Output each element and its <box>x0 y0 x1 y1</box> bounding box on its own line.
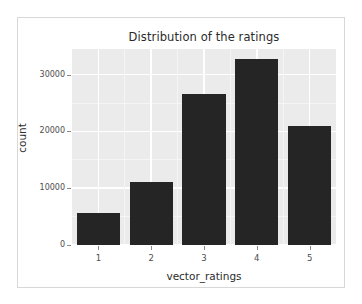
x-axis-tick-mark <box>257 246 258 250</box>
x-axis-tick-label: 1 <box>83 253 113 263</box>
bar <box>182 94 225 245</box>
y-axis-title: count <box>16 108 28 168</box>
y-axis-tick-label: 10000 <box>19 183 65 192</box>
bar <box>130 182 173 245</box>
gridline-vertical-minor <box>230 49 231 245</box>
x-axis-tick-label: 5 <box>295 253 325 263</box>
x-axis-tick-mark <box>310 246 311 250</box>
gridline-vertical-minor <box>124 49 125 245</box>
gridline-vertical-minor <box>177 49 178 245</box>
y-axis-tick-mark <box>67 188 71 189</box>
x-axis-tick-mark <box>204 246 205 250</box>
y-axis-tick-label: 30000 <box>19 70 65 79</box>
chart-title: Distribution of the ratings <box>72 30 336 44</box>
y-axis-tick-mark <box>67 75 71 76</box>
x-axis-tick-label: 3 <box>189 253 219 263</box>
x-axis-tick-label: 2 <box>136 253 166 263</box>
y-axis-tick-mark <box>67 245 71 246</box>
bar <box>288 126 331 245</box>
y-axis-tick-mark <box>67 131 71 132</box>
chart-figure: Distribution of the ratings 010000200003… <box>0 0 362 304</box>
gridline-vertical-minor <box>283 49 284 245</box>
x-axis-tick-mark <box>98 246 99 250</box>
plot-panel <box>72 49 336 245</box>
x-axis-tick-label: 4 <box>242 253 272 263</box>
y-axis-tick-label: 0 <box>19 240 65 249</box>
bar <box>77 213 120 245</box>
x-axis-tick-mark <box>151 246 152 250</box>
bar <box>235 59 278 245</box>
x-axis-title: vector_ratings <box>72 270 336 282</box>
